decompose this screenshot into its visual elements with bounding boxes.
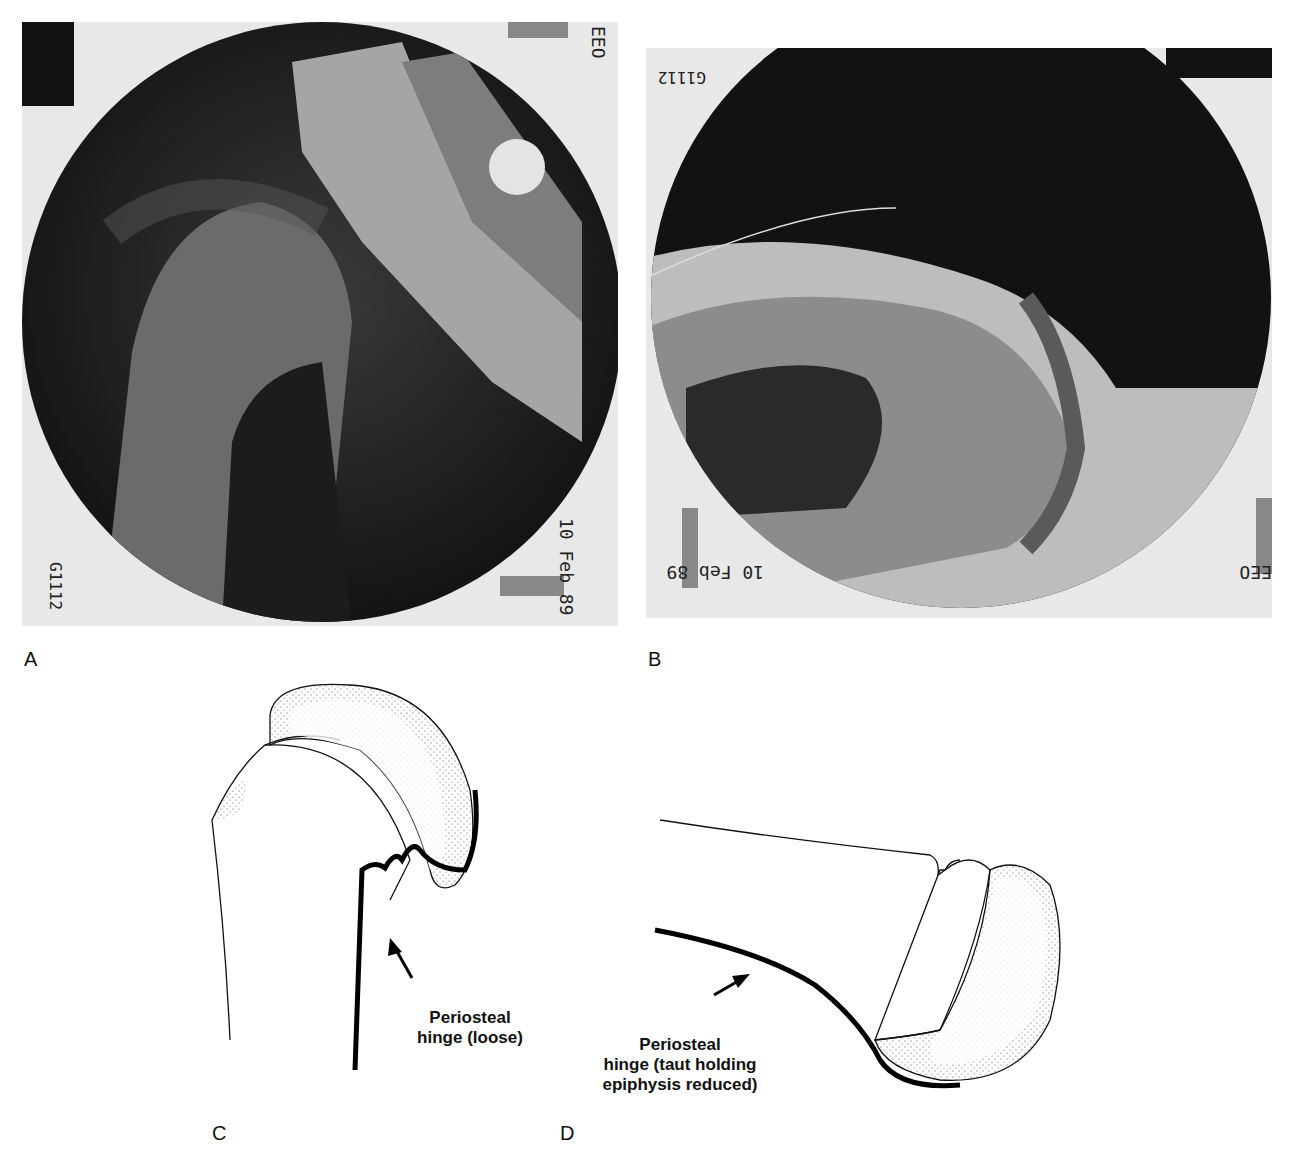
label-d-line3: epiphysis reduced) xyxy=(585,1075,775,1095)
label-d-line2: hinge (taut holding xyxy=(585,1055,775,1075)
panel-letter-b: B xyxy=(648,648,661,671)
radiograph-a: EEO 10 Feb 89 G1112 xyxy=(22,22,618,626)
label-c-line2: hinge (loose) xyxy=(395,1028,545,1048)
radiograph-b: G1112 10 Feb 89 EEO xyxy=(646,48,1272,618)
arrow-icon xyxy=(388,938,412,978)
panel-letter-d: D xyxy=(560,1122,574,1145)
arrow-icon xyxy=(714,974,750,995)
label-c: Periosteal hinge (loose) xyxy=(395,1008,545,1048)
label-d-line1: Periosteal xyxy=(585,1035,775,1055)
panel-letter-a: A xyxy=(24,648,37,671)
film-marker-b: EEO xyxy=(1239,562,1272,583)
film-date-a: 10 Feb 89 xyxy=(556,518,577,616)
film-handwriting-a: G1112 xyxy=(46,562,65,610)
film-date-b: 10 Feb 89 xyxy=(666,562,764,583)
label-c-line1: Periosteal xyxy=(395,1008,545,1028)
label-d: Periosteal hinge (taut holding epiphysis… xyxy=(585,1035,775,1095)
film-handwriting-b: G1112 xyxy=(658,68,706,87)
panel-letter-c: C xyxy=(212,1122,226,1145)
film-marker-a: EEO xyxy=(588,26,609,59)
